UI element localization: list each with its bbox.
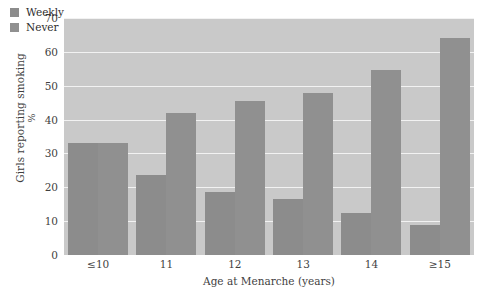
bar-never-1 [166,113,196,255]
legend-label-weekly: Weekly [26,6,64,18]
y-axis-tick-labels: 010203040506070 [32,18,62,255]
x-axis-tick-label: 11 [132,258,200,274]
bar-weekly-3 [273,199,303,255]
y-axis-tick-label: 50 [45,80,58,92]
legend: Weekly Never [10,5,64,35]
bar-never-5 [440,38,470,255]
bar-weekly-2 [205,192,235,255]
bar-group [337,18,405,255]
bar-group [64,18,132,255]
bar-group [132,18,200,255]
legend-swatch-never-icon [10,23,19,32]
y-axis-tick-label: 0 [51,249,58,261]
x-axis-tick-label: 14 [337,258,405,274]
legend-swatch-weekly-icon [10,8,19,17]
y-axis-tick-label: 30 [45,147,58,159]
y-axis-tick-label: 60 [45,46,58,58]
bar-weekly-4 [341,213,371,255]
bar-never-4 [371,70,401,255]
bar-never-3 [303,93,333,256]
bar-never-2 [235,101,265,255]
y-axis-title-line1: Girls reporting smoking [14,53,26,183]
bar-never-0 [98,143,128,255]
y-axis-tick-label: 10 [45,215,58,227]
x-axis-tick-label: 13 [269,258,337,274]
legend-label-never: Never [26,21,59,33]
bar-weekly-5 [410,225,440,255]
x-axis-tick-label: ≥15 [406,258,474,274]
bar-group [406,18,474,255]
bar-group [201,18,269,255]
plot-area [64,18,474,255]
bar-weekly-1 [136,175,166,255]
legend-item-weekly: Weekly [10,5,64,19]
y-axis-tick-label: 40 [45,114,58,126]
x-axis-tick-label: 12 [201,258,269,274]
bar-chart: Girls reporting smoking % 01020304050607… [0,0,492,295]
x-axis-tick-labels: ≤1011121314≥15 [64,258,474,274]
x-axis-title: Age at Menarche (years) [64,275,474,287]
bar-weekly-0 [68,143,98,255]
legend-item-never: Never [10,20,64,34]
bar-group [269,18,337,255]
y-axis-tick-label: 20 [45,181,58,193]
bars-layer [64,18,474,255]
x-axis-tick-label: ≤10 [64,258,132,274]
